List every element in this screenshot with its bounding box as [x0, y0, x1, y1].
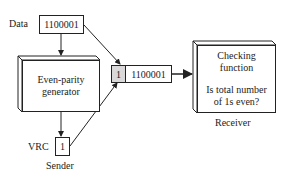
vrc-box: 1: [55, 137, 70, 156]
checker-line1: Checking: [217, 50, 255, 62]
data-bits-value: 1100001: [131, 69, 166, 80]
generator-line2: generator: [42, 86, 80, 98]
transmitted-frame: 1 1100001: [111, 65, 172, 83]
receiver-label: Receiver: [215, 117, 251, 129]
parity-bit-cell: 1: [112, 66, 126, 82]
data-box: 1100001: [39, 15, 84, 34]
sender-label: Sender: [46, 160, 74, 172]
checking-function: Checking function Is total number of 1s …: [197, 45, 276, 113]
parity-bit-value: 1: [116, 69, 121, 80]
even-parity-generator: Even-parity generator: [22, 60, 100, 112]
data-label: Data: [9, 18, 28, 30]
generator-line1: Even-parity: [37, 74, 84, 86]
vrc-label: VRC: [28, 141, 49, 153]
vrc-value: 1: [60, 141, 65, 152]
data-value: 1100001: [44, 19, 79, 30]
data-bits-cell: 1100001: [126, 66, 171, 82]
checker-line4: of 1s even?: [214, 96, 260, 108]
checker-line3: Is total number: [206, 84, 267, 96]
checker-line2: function: [220, 62, 253, 74]
